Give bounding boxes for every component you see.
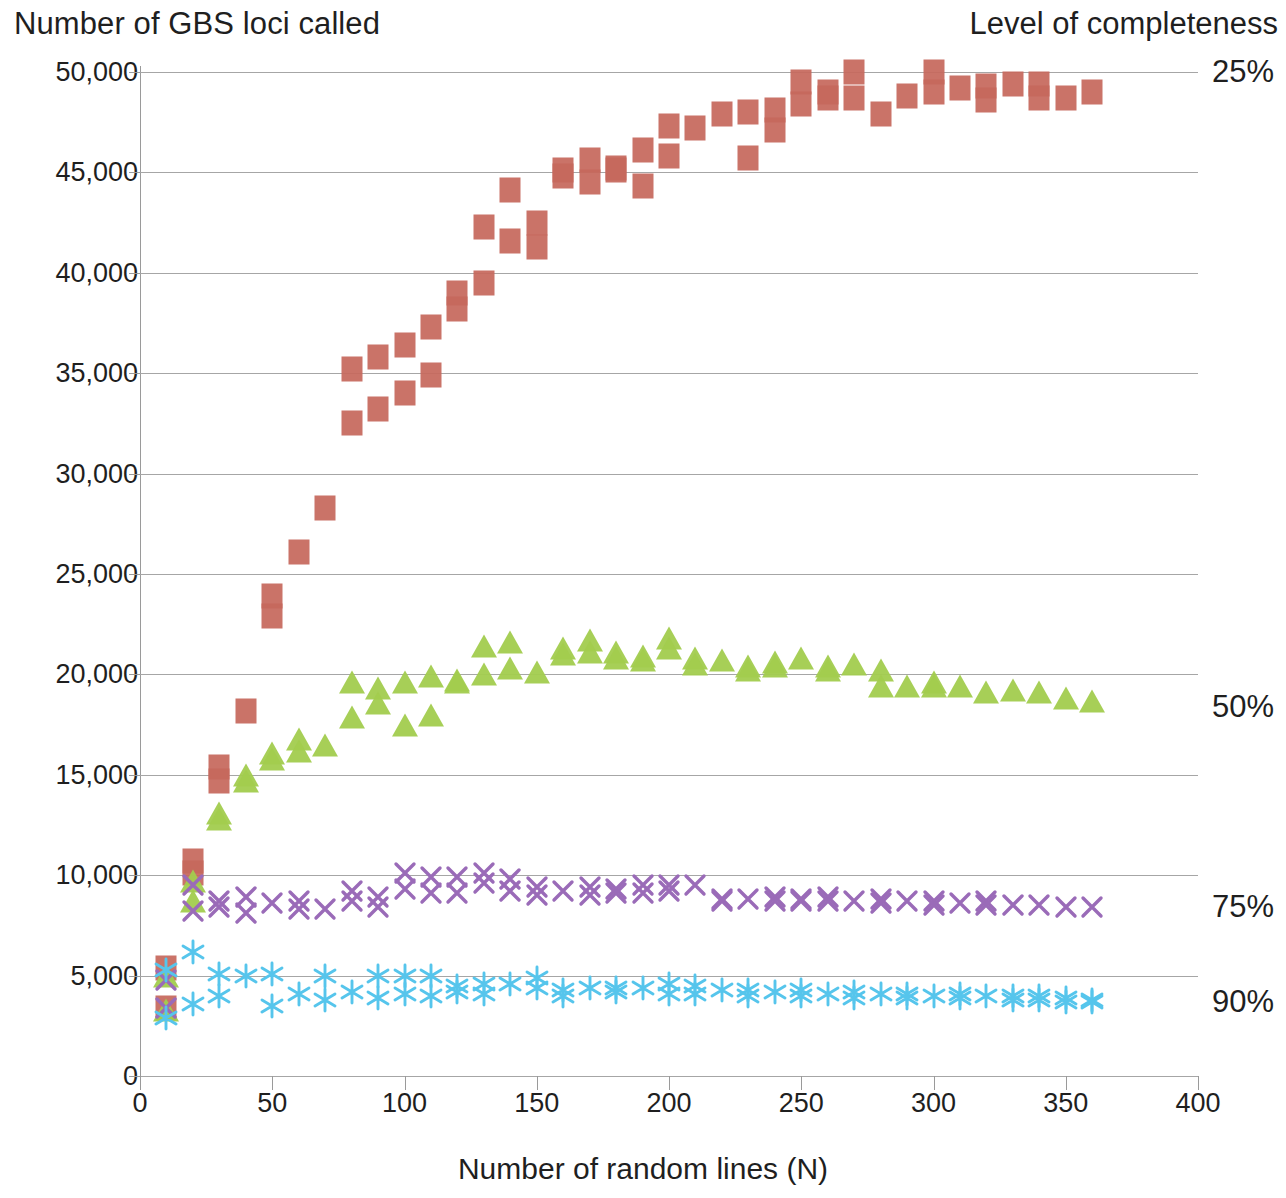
- data-point-50pct: [180, 890, 206, 913]
- data-point-75pct: [524, 874, 550, 904]
- data-point-75pct: [471, 860, 497, 890]
- data-point-90pct: [973, 983, 999, 1013]
- y-axis-tick-mark: [129, 976, 140, 977]
- data-point-90pct: [180, 939, 206, 969]
- y-axis-title: Number of GBS loci called: [14, 6, 380, 42]
- data-point-50pct: [894, 675, 920, 698]
- x-axis-tick-mark: [405, 1076, 406, 1090]
- y-axis-tick-mark: [129, 875, 140, 876]
- data-point-75pct: [497, 866, 523, 896]
- data-point-50pct: [444, 669, 470, 692]
- data-point-75pct: [973, 888, 999, 918]
- data-point-90pct: [682, 981, 708, 1011]
- data-point-75pct: [630, 872, 656, 902]
- data-point-90pct: [206, 961, 232, 991]
- data-point-25pct: [262, 584, 283, 609]
- data-point-75pct: [259, 890, 285, 920]
- data-point-50pct: [788, 647, 814, 670]
- data-point-25pct: [368, 345, 389, 370]
- data-point-75pct: [339, 888, 365, 918]
- data-point-75pct: [524, 882, 550, 912]
- data-point-75pct: [577, 874, 603, 904]
- data-point-75pct: [180, 898, 206, 928]
- data-point-90pct: [524, 965, 550, 995]
- data-point-90pct: [418, 983, 444, 1013]
- y-axis-tick-mark: [129, 574, 140, 575]
- data-point-90pct: [365, 963, 391, 993]
- data-point-75pct: [709, 886, 735, 916]
- data-point-75pct: [392, 860, 418, 890]
- data-point-90pct: [788, 977, 814, 1007]
- data-point-90pct: [1053, 985, 1079, 1015]
- data-point-25pct: [420, 315, 441, 340]
- data-point-25pct: [553, 164, 574, 189]
- x-axis-tick-label: 250: [741, 1088, 861, 1119]
- data-point-90pct: [1053, 989, 1079, 1019]
- x-axis-title: Number of random lines (N): [0, 1152, 1286, 1186]
- data-point-75pct: [1000, 892, 1026, 922]
- data-point-25pct: [235, 698, 256, 723]
- y-axis-tick-label: 0: [0, 1061, 138, 1092]
- data-point-25pct: [738, 100, 759, 125]
- x-axis-tick-label: 300: [874, 1088, 994, 1119]
- data-point-90pct: [206, 983, 232, 1013]
- data-point-90pct: [471, 981, 497, 1011]
- data-point-90pct: [1079, 987, 1105, 1017]
- data-point-90pct: [868, 981, 894, 1011]
- data-point-50pct: [815, 655, 841, 678]
- data-point-25pct: [791, 92, 812, 117]
- data-point-90pct: [286, 981, 312, 1011]
- data-point-75pct: [868, 890, 894, 920]
- data-point-90pct: [180, 991, 206, 1021]
- data-point-75pct: [709, 888, 735, 918]
- y-axis-tick-label: 30,000: [0, 458, 138, 489]
- data-point-50pct: [259, 741, 285, 764]
- data-point-75pct: [921, 888, 947, 918]
- legend-title: Level of completeness: [970, 6, 1278, 42]
- x-axis-tick-label: 100: [345, 1088, 465, 1119]
- data-point-75pct: [418, 880, 444, 910]
- data-point-50pct: [339, 705, 365, 728]
- data-point-25pct: [659, 114, 680, 139]
- data-point-25pct: [579, 170, 600, 195]
- series-label-50pct: 50%: [1212, 689, 1274, 725]
- y-axis-tick-mark: [129, 674, 140, 675]
- data-point-90pct: [524, 975, 550, 1005]
- x-axis-tick-label: 0: [80, 1088, 200, 1119]
- data-point-25pct: [394, 381, 415, 406]
- data-point-90pct: [444, 979, 470, 1009]
- data-point-50pct: [735, 655, 761, 678]
- x-axis-tick-label: 200: [609, 1088, 729, 1119]
- y-axis-tick-mark: [129, 273, 140, 274]
- data-point-90pct: [365, 985, 391, 1015]
- data-point-90pct: [947, 985, 973, 1015]
- data-point-75pct: [577, 882, 603, 912]
- data-point-90pct: [339, 979, 365, 1009]
- data-point-90pct: [259, 993, 285, 1023]
- data-point-50pct: [921, 675, 947, 698]
- data-point-50pct: [312, 733, 338, 756]
- data-point-75pct: [153, 967, 179, 997]
- data-point-90pct: [153, 957, 179, 987]
- data-point-50pct: [550, 643, 576, 666]
- data-point-75pct: [762, 884, 788, 914]
- data-point-50pct: [709, 649, 735, 672]
- data-point-50pct: [815, 659, 841, 682]
- data-point-75pct: [233, 900, 259, 930]
- data-point-25pct: [1029, 72, 1050, 97]
- data-point-50pct: [497, 657, 523, 680]
- data-point-25pct: [473, 270, 494, 295]
- data-point-50pct: [577, 629, 603, 652]
- data-point-25pct: [923, 80, 944, 105]
- data-point-50pct: [947, 675, 973, 698]
- data-point-50pct: [1026, 681, 1052, 704]
- x-axis-tick-mark: [669, 1076, 670, 1090]
- data-point-50pct: [286, 727, 312, 750]
- data-point-25pct: [949, 76, 970, 101]
- data-point-75pct: [921, 892, 947, 922]
- data-point-75pct: [868, 886, 894, 916]
- data-point-50pct: [656, 637, 682, 660]
- data-point-90pct: [471, 971, 497, 1001]
- data-point-25pct: [632, 174, 653, 199]
- data-point-75pct: [550, 878, 576, 908]
